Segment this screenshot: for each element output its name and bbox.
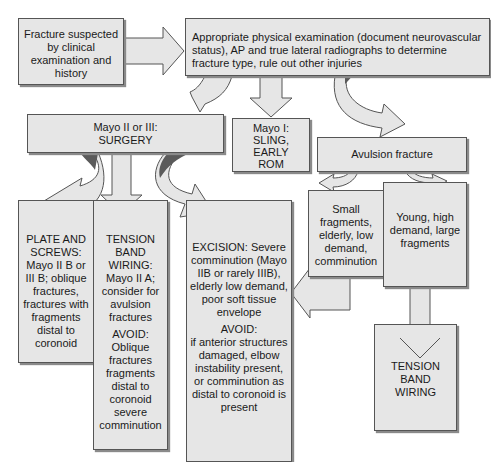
node-line: Mayo II or III: (32, 121, 219, 134)
node-avulsion-fracture: Avulsion fracture (317, 137, 467, 172)
node-text: TENSION BAND WIRING: Mayo II A; consider… (96, 233, 165, 324)
node-text: Appropriate physical examination (docume… (192, 31, 483, 70)
node-mayo-2-3-surgery: Mayo II or III: SURGERY (27, 114, 224, 153)
node-excision: EXCISION: Severe comminution (Mayo IIB o… (186, 200, 292, 462)
node-text: PLATE AND SCREWS: Mayo II B or III B; ob… (21, 233, 91, 350)
node-line: BAND (377, 373, 454, 386)
node-line: SURGERY (32, 134, 219, 147)
node-fracture-suspected: Fracture suspected by clinical examinati… (18, 18, 124, 85)
node-line: TENSION (377, 360, 454, 373)
arrow-start-to-exam (123, 27, 184, 75)
arrow-exam-to-mayo23 (190, 76, 232, 112)
node-text: EXCISION: Severe comminution (Mayo IIB o… (189, 241, 289, 319)
node-line: WIRING (377, 386, 454, 399)
node-plate-and-screws: PLATE AND SCREWS: Mayo II B or III B; ob… (18, 200, 94, 363)
arrow-exam-to-avulsion (334, 76, 405, 137)
node-text: Avulsion fracture (322, 148, 462, 161)
node-young-high-demand: Young, high demand, large fragments (383, 182, 467, 287)
node-tension-band-wiring-right: TENSION BAND WIRING (374, 324, 457, 431)
node-text: Young, high demand, large fragments (387, 211, 463, 250)
node-avoid-label: AVOID: (189, 319, 289, 336)
node-small-fragments: Small fragments, elderly, low demand, co… (308, 190, 384, 277)
node-line: EARLY (235, 146, 307, 158)
node-avoid: if anterior structures damaged, elbow in… (189, 336, 289, 414)
node-line: ROM (235, 158, 307, 170)
node-line: SLING, (235, 134, 307, 146)
node-line: Mayo I: (235, 122, 307, 134)
node-text: Fracture suspected by clinical examinati… (23, 28, 119, 80)
fold-shade-left (80, 153, 98, 170)
node-text: Small fragments, elderly, low demand, co… (311, 203, 381, 268)
arrow-exam-to-mayo1 (250, 76, 292, 117)
node-avoid: AVOID: Oblique fractures fragments dista… (96, 324, 165, 432)
arrow-avulsion-to-small (319, 171, 358, 192)
fold-shade-exam (345, 76, 352, 84)
node-physical-examination: Appropriate physical examination (docume… (185, 18, 490, 76)
node-tension-band-wiring-left: TENSION BAND WIRING: Mayo II A; consider… (93, 200, 168, 450)
node-mayo-1-sling: Mayo I: SLING, EARLY ROM (232, 118, 310, 172)
